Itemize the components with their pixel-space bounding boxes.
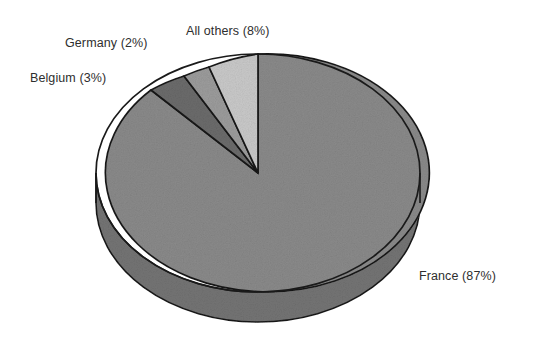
pie-chart-canvas (0, 0, 544, 347)
pie-label-france: France (87%) (419, 269, 496, 283)
pie-top-face (105, 54, 429, 292)
pie-label-germany: Germany (2%) (65, 36, 147, 50)
pie-label-belgium: Belgium (3%) (30, 71, 106, 85)
pie-chart-figure: All others (8%) Germany (2%) Belgium (3%… (0, 0, 544, 347)
pie-label-all-others: All others (8%) (186, 24, 269, 38)
